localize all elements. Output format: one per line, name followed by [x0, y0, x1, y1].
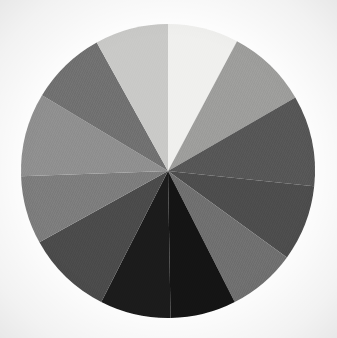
pie-slice-group: [21, 24, 315, 318]
pie-chart-svg: [0, 0, 337, 338]
page-root: [0, 0, 337, 338]
pie-chart-figure: [0, 0, 337, 338]
